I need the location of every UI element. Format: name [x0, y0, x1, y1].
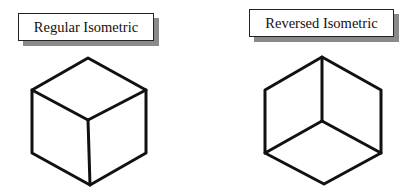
cube-diagrams — [0, 0, 419, 196]
reversed-cube-inner-edges — [265, 57, 381, 153]
cube-edge — [32, 90, 88, 120]
reversed-isometric-cube — [265, 57, 381, 184]
cube-edge — [265, 121, 322, 153]
regular-isometric-cube — [32, 58, 146, 185]
cube-edge — [88, 120, 90, 185]
cube-edge — [88, 90, 146, 120]
regular-cube-inner-edges — [32, 90, 146, 185]
cube-edge — [322, 121, 381, 153]
